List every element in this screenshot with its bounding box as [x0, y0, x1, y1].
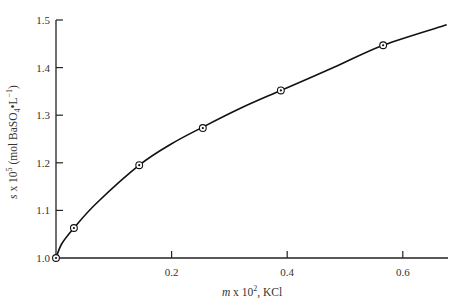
- y-tick-label: 1.2: [36, 157, 50, 169]
- fitted-curve: [56, 25, 447, 258]
- x-label-rest: x 10: [230, 286, 253, 298]
- y-label-d: ): [7, 85, 20, 89]
- y-tick-label: 1.5: [36, 14, 50, 26]
- x-tick-label: 0.6: [396, 266, 410, 278]
- data-point: [199, 125, 206, 132]
- y-label-c: •L: [7, 97, 19, 108]
- y-label-b: (mol BaSO: [7, 112, 20, 167]
- x-label-var: m: [222, 286, 230, 298]
- data-point: [380, 42, 387, 49]
- y-tick-label: 1.0: [36, 252, 50, 264]
- data-point: [53, 255, 60, 262]
- data-points: [53, 42, 387, 262]
- y-axis-ticks: 1.01.11.21.31.41.5: [36, 14, 63, 264]
- data-point: [277, 87, 284, 94]
- data-point: [71, 225, 78, 232]
- y-label-a: x 10: [7, 171, 19, 194]
- y-label-sup2: −1: [5, 89, 14, 98]
- y-tick-label: 1.4: [36, 62, 50, 74]
- x-tick-label: 0.4: [280, 266, 294, 278]
- data-point: [136, 162, 143, 169]
- y-axis-label: s x 105 (mol BaSO4•L−1): [5, 85, 22, 199]
- chart: 1.01.11.21.31.41.5 0.20.40.6 m x 102, KC…: [0, 0, 464, 305]
- y-tick-label: 1.1: [36, 204, 50, 216]
- x-axis-label: m x 102, KCl: [222, 284, 282, 299]
- y-tick-label: 1.3: [36, 109, 50, 121]
- x-label-tail: , KCl: [257, 286, 282, 299]
- x-axis-ticks: 0.20.40.6: [165, 251, 410, 278]
- x-tick-label: 0.2: [165, 266, 179, 278]
- axes: [56, 20, 448, 258]
